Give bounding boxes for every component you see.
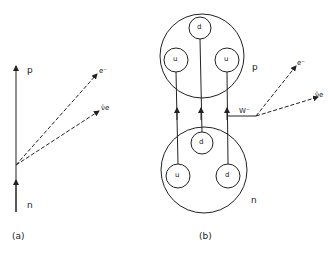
a-proton-label: p <box>27 66 33 75</box>
electron-line-b <box>256 66 296 116</box>
neutron-quark-d-right-label: d <box>225 172 229 179</box>
w-boson-label: W⁻ <box>239 108 250 115</box>
a-antineutrino-label: ν̄e <box>101 105 109 112</box>
proton-quark-u-left-label: u <box>173 56 177 63</box>
proton-quark-u-right-label: u <box>224 56 228 63</box>
neutron-circle <box>161 127 247 213</box>
b-antineutrino-label: ν̄e <box>315 92 323 99</box>
b-neutron-label: n <box>251 196 257 205</box>
a-neutron-label: n <box>27 201 33 210</box>
diagram-graphics <box>0 0 334 254</box>
proton-quark-d-label: d <box>197 24 201 31</box>
a-electron-label: e⁻ <box>99 68 107 75</box>
antineutrino-line-b <box>256 97 318 116</box>
electron-line <box>16 74 97 165</box>
b-proton-label: p <box>252 63 258 72</box>
beta-decay-figure: p n e⁻ ν̄e (a) d u u d u d p n W⁻ e⁻ ν̄e… <box>0 0 334 254</box>
diagram-a <box>16 66 99 212</box>
a-caption: (a) <box>12 232 25 241</box>
b-electron-label: e⁻ <box>297 60 305 67</box>
neutron-quark-d-top-label: d <box>199 139 203 146</box>
b-caption: (b) <box>199 232 212 241</box>
neutron-quark-u-label: u <box>175 172 179 179</box>
